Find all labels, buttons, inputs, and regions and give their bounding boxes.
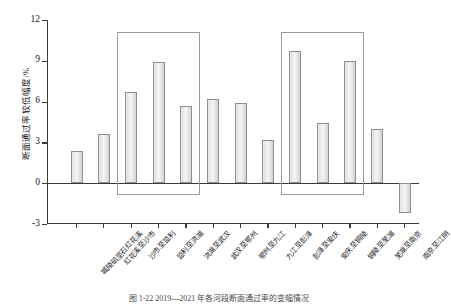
x-axis-label: 芜湖至南京 (394, 230, 424, 261)
bar (262, 140, 274, 184)
bar (125, 92, 137, 183)
bar (207, 99, 219, 183)
y-axis-title: 断面通过率较低幅度/% (19, 29, 31, 199)
y-tick-label: 0 (35, 177, 40, 188)
bar (399, 183, 411, 213)
x-axis-label: 九江至彭泽 (284, 230, 314, 261)
x-axis-label: 南京至江阴 (421, 230, 451, 261)
y-tick-label: -3 (32, 218, 40, 229)
bar (71, 151, 83, 184)
y-tick-label: 12 (31, 14, 41, 25)
bar (153, 62, 165, 183)
bar (289, 51, 301, 183)
x-tick-mark (404, 223, 405, 228)
y-tick-label: 3 (35, 136, 40, 147)
figure-caption: 图 1-22 2019—2021 年各河段断面通过率的变幅情况 (0, 292, 438, 303)
x-axis-label: 安庆至铜陵 (339, 230, 369, 261)
x-tick-mark (131, 223, 132, 228)
y-tick-label: 6 (35, 95, 40, 106)
x-axis-label: 监利至洪湖 (175, 230, 205, 261)
x-tick-mark (240, 223, 241, 228)
y-tick-mark (42, 183, 47, 184)
x-tick-mark (349, 223, 350, 228)
x-tick-mark (295, 223, 296, 228)
bar (371, 129, 383, 183)
x-tick-mark (377, 223, 378, 228)
bar (235, 103, 247, 183)
y-tick-label: 9 (35, 54, 40, 65)
bar (180, 106, 192, 184)
y-axis-line (47, 20, 48, 224)
bar (98, 134, 110, 183)
x-tick-mark (185, 223, 186, 228)
y-tick-mark (42, 20, 47, 21)
x-tick-mark (322, 223, 323, 228)
x-axis-label: 铜陵至芜湖 (366, 230, 396, 261)
x-tick-mark (213, 223, 214, 228)
x-tick-mark (103, 223, 104, 228)
y-tick-mark (42, 102, 47, 103)
y-tick-mark (42, 142, 47, 143)
x-axis-label: 洪湖至武汉 (202, 230, 232, 261)
x-axis-label: 武汉至鄂州 (229, 230, 259, 261)
bar (344, 61, 356, 183)
x-tick-mark (76, 223, 77, 228)
x-axis-label: 彭泽至安庆 (311, 230, 341, 261)
plot-area: -3036912 城陵矶至石红花溪红花溪至沙市沙市至监利监利至洪湖洪湖至武汉武汉… (47, 20, 419, 224)
y-tick-mark (42, 61, 47, 62)
x-axis-label: 鄂州至九江 (257, 230, 287, 261)
y-tick-mark (42, 224, 47, 225)
x-tick-mark (158, 223, 159, 228)
bar (317, 123, 329, 183)
x-tick-mark (267, 223, 268, 228)
